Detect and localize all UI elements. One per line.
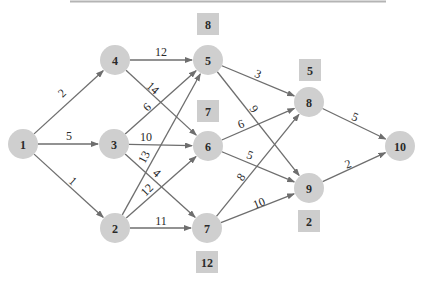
value-box-label: 7 — [205, 105, 211, 119]
node-6: 6 — [193, 131, 223, 161]
edge-weight-label: 14 — [144, 79, 162, 97]
node-3: 3 — [99, 129, 129, 159]
edge-weight-label: 6 — [236, 116, 246, 131]
node-label: 1 — [20, 138, 26, 152]
value-box-6: 7 — [197, 100, 219, 122]
node-label: 7 — [204, 222, 210, 236]
value-box-label: 5 — [307, 64, 313, 78]
value-box-9: 2 — [298, 210, 320, 232]
node-5: 5 — [193, 45, 223, 75]
node-label: 3 — [111, 138, 117, 152]
value-box-label: 12 — [201, 256, 213, 270]
node-8: 8 — [294, 87, 324, 117]
edge-weight-label: 9 — [247, 103, 262, 116]
edge-weight-label: 2 — [343, 156, 353, 171]
edge-weight-label: 12 — [138, 181, 156, 199]
diagram-canvas: 871252 12345678910 251121461041312113965… — [0, 0, 429, 287]
value-box-5: 8 — [197, 13, 219, 35]
edge-weight-label: 2 — [55, 86, 69, 100]
edge-weight-label: 12 — [155, 45, 167, 59]
node-2: 2 — [100, 213, 130, 243]
edge-weight-label: 4 — [150, 166, 164, 180]
node-label: 9 — [306, 182, 312, 196]
node-label: 10 — [394, 140, 406, 154]
edge-9-10 — [323, 153, 386, 182]
node-9: 9 — [294, 173, 324, 203]
node-4: 4 — [100, 45, 130, 75]
node-label: 4 — [112, 54, 118, 68]
node-label: 2 — [112, 222, 118, 236]
edge-weight-label: 5 — [245, 147, 255, 162]
edge-1-4 — [34, 71, 103, 134]
network-diagram: 871252 12345678910 251121461041312113965… — [0, 0, 429, 287]
value-box-7: 12 — [196, 251, 218, 273]
value-box-8: 5 — [299, 59, 321, 81]
value-box-label: 2 — [306, 215, 312, 229]
edge-weight-label: 8 — [234, 171, 249, 184]
node-10: 10 — [385, 131, 415, 161]
edge-3-7 — [125, 154, 195, 217]
node-label: 5 — [205, 54, 211, 68]
edge-6-8 — [222, 108, 295, 140]
edge-weight-label: 6 — [140, 100, 154, 114]
edge-weight-label: 5 — [66, 129, 72, 143]
node-label: 6 — [205, 140, 211, 154]
edge-weight-label: 3 — [253, 66, 264, 81]
edge-weight-label: 10 — [140, 130, 152, 144]
node-7: 7 — [192, 213, 222, 243]
node-label: 8 — [306, 96, 312, 110]
edge-weight-label: 11 — [155, 214, 167, 228]
edge-weight-label: 5 — [350, 109, 361, 124]
edge-weight-label: 1 — [66, 174, 80, 188]
node-1: 1 — [8, 129, 38, 159]
value-box-label: 8 — [205, 18, 211, 32]
edge-weight-label: 10 — [251, 194, 267, 211]
